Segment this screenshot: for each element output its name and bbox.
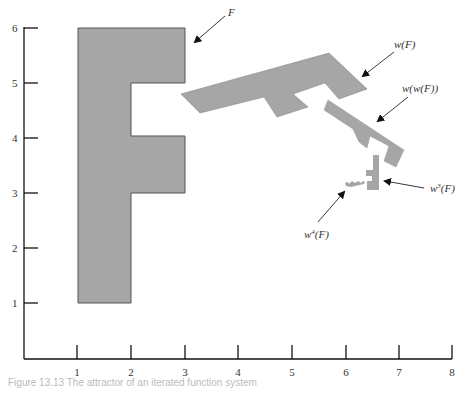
y-tick-3: 3 <box>12 187 18 199</box>
arrow-icon-wF <box>363 52 394 76</box>
arrows <box>195 16 424 222</box>
label-w3F: w3(F) <box>430 182 455 195</box>
shape-w4F <box>345 181 365 187</box>
arrow-icon-w3F <box>385 181 424 188</box>
y-tick-2: 2 <box>12 242 18 254</box>
label-w4F: w4(F) <box>304 228 329 241</box>
figure-caption: Figure 13.13 The attractor of an iterate… <box>8 377 257 388</box>
y-tick-5: 5 <box>12 77 18 89</box>
label-F: F <box>227 6 235 18</box>
x-tick-7: 7 <box>396 366 402 378</box>
arrow-icon-wwF <box>378 97 408 121</box>
arrow-icon-F <box>195 16 225 42</box>
shape-F <box>78 28 185 303</box>
x-tick-8: 8 <box>449 366 455 378</box>
y-tick-4: 4 <box>12 132 18 144</box>
label-wF: w(F) <box>394 38 416 51</box>
shape-w3F <box>366 155 379 190</box>
y-tick-labels: 6 5 4 3 2 1 <box>12 22 18 309</box>
ifs-diagram: 6 5 4 3 2 1 1 2 3 4 5 6 7 8 F w(F) <box>0 0 468 393</box>
arrow-icon-w4F <box>318 192 344 222</box>
y-tick-6: 6 <box>12 22 18 34</box>
x-tick-6: 6 <box>343 366 349 378</box>
x-tick-5: 5 <box>289 366 295 378</box>
label-wwF: w(w(F)) <box>402 82 438 95</box>
y-tick-1: 1 <box>12 297 18 309</box>
